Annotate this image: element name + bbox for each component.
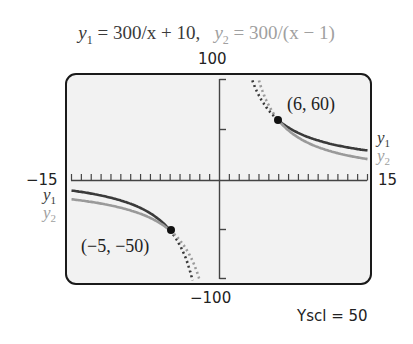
legend-right-y2: y2 — [377, 146, 390, 167]
point-label-6-60: (6, 60) — [287, 94, 335, 115]
intersection-point-6-60 — [274, 116, 282, 124]
point-label-minus5-minus50: (−5, −50) — [81, 236, 149, 257]
intersection-point-minus5-minus50 — [167, 226, 175, 234]
plot-area — [0, 0, 413, 344]
legend-left-y2: y2 — [43, 203, 56, 224]
